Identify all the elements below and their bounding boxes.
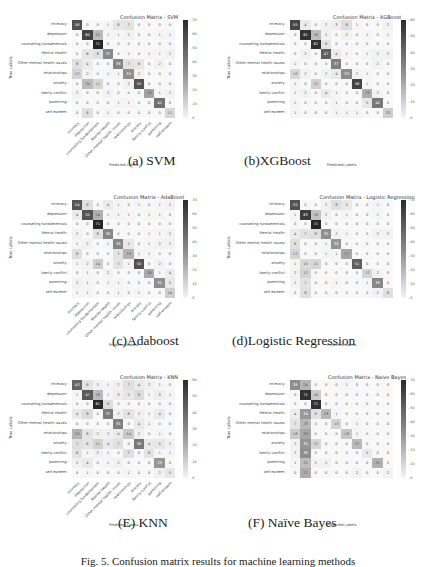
heatmap-cell: 0 xyxy=(372,220,382,230)
heatmap-cell: 12 xyxy=(311,439,321,449)
colorbar-tick: - 10 xyxy=(408,100,415,104)
heatmap-cell: 2 xyxy=(165,439,175,449)
heatmap-cell: 0 xyxy=(72,98,82,108)
heatmap-cell: 1 xyxy=(82,449,92,459)
heatmap-cell: 0 xyxy=(113,89,123,99)
heatmap-cell: 28 xyxy=(144,89,154,99)
heatmap-cell: 0 xyxy=(123,229,133,239)
heatmap-cell: 0 xyxy=(321,380,331,390)
heatmap-cell: 2 xyxy=(113,458,123,468)
heatmap-cell: 1 xyxy=(352,419,362,429)
heatmap-cell: 0 xyxy=(290,30,300,40)
heatmap-cell: 0 xyxy=(352,49,362,59)
y-tick-label: self-esteem - xyxy=(218,468,287,478)
colorbar-tick: - 20 xyxy=(190,88,197,92)
heatmap-cell: 35 xyxy=(113,419,123,429)
heatmap-cell: 0 xyxy=(93,20,103,30)
colorbar-tick: - 10 xyxy=(190,282,197,286)
heatmap-cell: 5 xyxy=(154,439,164,449)
heatmap-cell: 0 xyxy=(103,468,113,478)
heatmap-cell: 2 xyxy=(82,69,92,79)
heatmap-cell: 0 xyxy=(321,59,331,69)
heatmap-cell: 0 xyxy=(352,89,362,99)
heatmap-grid: 5540238100206118202010100626000000020474… xyxy=(290,20,393,118)
heatmap-cell: 1 xyxy=(123,210,133,220)
heatmap-cell: 61 xyxy=(300,30,310,40)
heatmap-cell: 2 xyxy=(165,49,175,59)
heatmap-cell: 8 xyxy=(311,409,321,419)
heatmap-cell: 8 xyxy=(311,229,321,239)
heatmap-cell: 0 xyxy=(93,468,103,478)
heatmap-cell: 7 xyxy=(113,259,123,269)
heatmap-cell: 2 xyxy=(134,429,144,439)
heatmap-cell: 0 xyxy=(165,259,175,269)
heatmap-cell: 0 xyxy=(341,79,351,89)
heatmap-cell: 2 xyxy=(321,30,331,40)
heatmap-cell: 0 xyxy=(82,40,92,50)
heatmap-cell: 20 xyxy=(93,30,103,40)
figure-caption: Fig. 5. Confusion matrix results for mac… xyxy=(0,555,436,567)
heatmap-cell: 2 xyxy=(372,89,382,99)
heatmap-cell: 6 xyxy=(82,429,92,439)
heatmap-cell: 2 xyxy=(321,210,331,220)
heatmap-cell: 11 xyxy=(311,259,321,269)
heatmap-cell: 0 xyxy=(93,239,103,249)
colorbar-tick: - 20 xyxy=(408,268,415,272)
heatmap-cell: 1 xyxy=(352,20,362,30)
heatmap-cell: 1 xyxy=(82,468,92,478)
heatmap-cell: 2 xyxy=(154,59,164,69)
heatmap-cell: 1 xyxy=(362,79,372,89)
heatmap-cell: 2 xyxy=(154,259,164,269)
heatmap-cell: 0 xyxy=(134,278,144,288)
heatmap-cell: 0 xyxy=(362,259,372,269)
heatmap-cell: 0 xyxy=(383,269,393,279)
heatmap-cell: 37 xyxy=(103,49,113,59)
heatmap-cell: 2 xyxy=(290,449,300,459)
heatmap-cell: 2 xyxy=(154,239,164,249)
heatmap-cell: 0 xyxy=(154,288,164,298)
heatmap-cell: 0 xyxy=(362,20,372,30)
heatmap-cell: 1 xyxy=(144,409,154,419)
y-tick-label: family-conflict - xyxy=(218,89,287,99)
heatmap-cell: 4 xyxy=(134,380,144,390)
heatmap-cell: 0 xyxy=(154,220,164,230)
heatmap-cell: 0 xyxy=(123,200,133,210)
heatmap-cell: 0 xyxy=(311,429,321,439)
heatmap-cell: 0 xyxy=(134,108,144,118)
heatmap-cell: 0 xyxy=(144,259,154,269)
heatmap-cell: 1 xyxy=(113,288,123,298)
heatmap-cell: 38 xyxy=(113,239,123,249)
y-tick-label: depression - xyxy=(218,210,287,220)
heatmap-cell: 4 xyxy=(103,200,113,210)
colorbar-tick: - 10 xyxy=(408,462,415,466)
heatmap-cell: 1 xyxy=(123,468,133,478)
heatmap-cell: 0 xyxy=(154,79,164,89)
heatmap-cell: 10 xyxy=(290,69,300,79)
heatmap-cell: 0 xyxy=(123,108,133,118)
heatmap-cell: 0 xyxy=(341,468,351,478)
colorbar-tick: - 40 xyxy=(408,51,415,55)
heatmap-cell: 1 xyxy=(154,380,164,390)
heatmap-cell: 0 xyxy=(383,249,393,259)
heatmap-cell: 0 xyxy=(311,249,321,259)
heatmap-cell: 38 xyxy=(113,59,123,69)
heatmap-cell: 0 xyxy=(113,468,123,478)
heatmap-cell: 1 xyxy=(290,79,300,89)
colorbar-tick: - 0 xyxy=(190,116,194,120)
colorbar-tick: - 60 xyxy=(408,392,415,396)
heatmap-cell: 0 xyxy=(383,69,393,79)
heatmap-cell: 1 xyxy=(103,390,113,400)
heatmap-cell: 1 xyxy=(103,30,113,40)
heatmap-cell: 0 xyxy=(362,220,372,230)
heatmap-cell: 1 xyxy=(331,108,341,118)
heatmap-cell: 1 xyxy=(123,259,133,269)
heatmap-cell: 55 xyxy=(134,259,144,269)
heatmap-cell: 0 xyxy=(362,200,372,210)
heatmap-cell: 0 xyxy=(352,98,362,108)
heatmap-cell: 1 xyxy=(290,89,300,99)
heatmap-cell: 0 xyxy=(341,439,351,449)
heatmap-cell: 0 xyxy=(311,108,321,118)
heatmap-cell: 2 xyxy=(341,30,351,40)
heatmap-cell: 23 xyxy=(321,409,331,419)
heatmap-cell: 0 xyxy=(93,288,103,298)
